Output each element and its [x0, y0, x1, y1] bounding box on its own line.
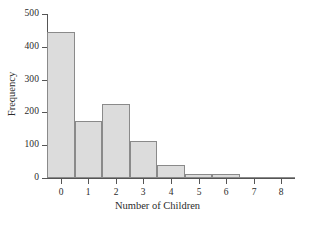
- x-axis-tick-label: 1: [76, 187, 100, 197]
- x-axis-tick-label: 4: [159, 187, 183, 197]
- x-axis-tick: [171, 179, 172, 184]
- x-axis-tick-label: 8: [269, 187, 293, 197]
- histogram-bar: [130, 141, 158, 178]
- y-axis-tick-label: 500: [24, 9, 39, 19]
- histogram-bar: [75, 121, 103, 178]
- histogram-chart: 0100200300400500 012345678 Frequency Num…: [0, 0, 315, 225]
- x-axis-tick-label: 0: [49, 187, 73, 197]
- plot-area: [47, 14, 295, 178]
- y-axis-tick-label: 200: [24, 107, 39, 117]
- x-axis-tick: [254, 179, 255, 184]
- histogram-bar: [157, 165, 185, 178]
- x-axis-tick-label: 7: [242, 187, 266, 197]
- histogram-bar: [267, 177, 295, 178]
- x-axis-tick: [116, 179, 117, 184]
- y-axis-tick-label: 400: [24, 42, 39, 52]
- x-axis-tick: [199, 179, 200, 184]
- x-axis-tick: [143, 179, 144, 184]
- x-axis-tick-label: 2: [104, 187, 128, 197]
- y-axis-tick-label: 0: [34, 173, 39, 183]
- histogram-bar: [185, 174, 213, 178]
- x-axis-tick-label: 3: [131, 187, 155, 197]
- histogram-bar: [102, 104, 130, 178]
- x-axis-tick: [226, 179, 227, 184]
- x-axis-tick-label: 5: [187, 187, 211, 197]
- x-axis-title: Number of Children: [0, 200, 315, 212]
- histogram-bar: [240, 177, 268, 178]
- x-axis-tick: [88, 179, 89, 184]
- y-axis-title: Frequency: [6, 44, 18, 144]
- x-axis-tick: [281, 179, 282, 184]
- y-axis-tick: [42, 178, 47, 179]
- y-axis-tick-label: 300: [24, 75, 39, 85]
- histogram-bar: [47, 32, 75, 178]
- x-axis-tick: [61, 179, 62, 184]
- x-axis-tick-label: 6: [214, 187, 238, 197]
- y-axis-tick-label: 100: [24, 140, 39, 150]
- histogram-bar: [212, 174, 240, 178]
